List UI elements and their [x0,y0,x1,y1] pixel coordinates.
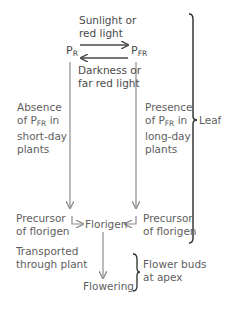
label-presence: Presence of PFR in long-day plants [145,101,193,155]
label-transported: Transported through plant [16,245,87,270]
label-flower-buds: Flower buds at apex [143,258,207,283]
label-precursor-right: Precursor of florigen [143,212,197,237]
label-absence: Absence of PFR in short-day plants [17,101,67,155]
node-flowering: Flowering [83,280,134,293]
label-leaf: Leaf [199,114,221,127]
node-pfr: PFR [131,44,147,58]
brace-apex [133,254,140,291]
label-sunlight: Sunlight or red light [79,14,136,39]
label-precursor-left: Precursor of florigen [16,212,70,237]
arrow-precursor-left-to-florigen [72,216,83,224]
node-pr: PR [66,44,78,58]
label-darkness: Darkness or far red light [78,64,141,89]
node-florigen: Florigen [85,218,127,231]
